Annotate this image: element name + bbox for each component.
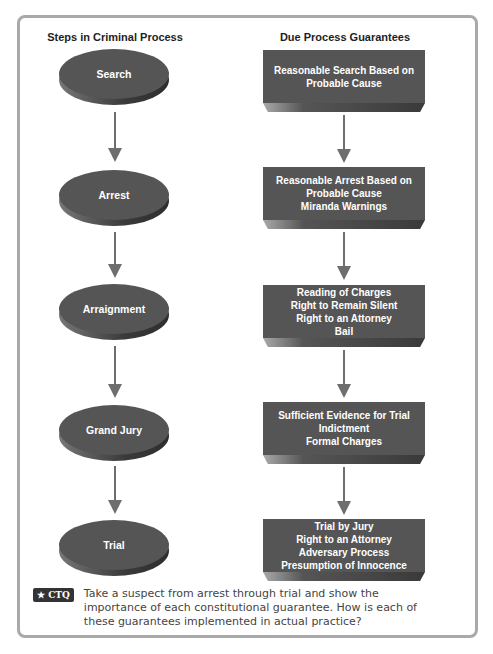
ctq-badge: ★ CTQ [33,588,74,602]
arrow-down-icon [108,346,122,398]
step-trial: Trial [59,520,169,576]
step-arrest: Arrest [59,170,169,226]
step-search: Search [59,49,169,105]
step-grand-jury: Grand Jury [59,405,169,461]
guarantee-arrest: Reasonable Arrest Based on Probable Caus… [263,167,425,229]
arrow-down-icon [337,467,351,515]
step-arraignment: Arraignment [59,284,169,340]
arrow-down-icon [337,115,351,163]
guarantee-search: Reasonable Search Based on Probable Caus… [263,50,425,112]
arrow-down-icon [108,112,122,162]
ctq-text: Take a suspect from arrest through trial… [84,587,444,629]
arrow-down-icon [108,466,122,514]
arrow-down-icon [108,232,122,278]
left-column-title: Steps in Criminal Process [40,31,190,43]
guarantee-trial: Trial by Jury Right to an Attorney Adver… [263,519,425,581]
right-column-title: Due Process Guarantees [270,31,420,43]
guarantee-arraignment: Reading of Charges Right to Remain Silen… [263,285,425,347]
critical-thinking-question: ★ CTQ Take a suspect from arrest through… [33,587,444,629]
arrow-down-icon [337,350,351,398]
arrow-down-icon [337,232,351,280]
guarantee-grand-jury: Sufficient Evidence for Trial Indictment… [263,402,425,464]
